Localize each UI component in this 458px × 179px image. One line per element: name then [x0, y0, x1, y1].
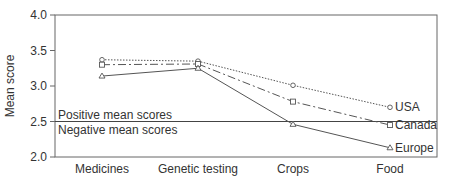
x-category-label: Medicines — [75, 162, 129, 176]
y-tick-label: 3.0 — [30, 79, 47, 93]
y-tick-label: 2.5 — [30, 115, 47, 129]
y-tick-label: 3.5 — [30, 44, 47, 58]
circle-marker-icon — [100, 57, 105, 62]
reference-line: Positive mean scoresNegative mean scores — [55, 108, 437, 137]
chart-canvas: 2.02.53.03.54.0 Positive mean scoresNega… — [0, 0, 458, 179]
series-label-canada: Canada — [395, 118, 437, 132]
y-tick-label: 2.0 — [30, 150, 47, 164]
axes: 2.02.53.03.54.0 — [30, 8, 437, 164]
x-category-label: Genetic testing — [158, 162, 238, 176]
circle-marker-icon — [291, 83, 296, 88]
square-marker-icon — [291, 99, 296, 104]
square-marker-icon — [388, 123, 393, 128]
triangle-marker-icon — [290, 121, 296, 126]
series-label-europe: Europe — [395, 141, 434, 155]
square-marker-icon — [100, 62, 105, 67]
x-category-label: Crops — [277, 162, 309, 176]
y-tick-label: 4.0 — [30, 8, 47, 22]
positive-region-label: Positive mean scores — [58, 108, 172, 122]
x-category-label: Food — [376, 162, 403, 176]
series-group: USACanadaEurope — [99, 57, 437, 154]
circle-marker-icon — [388, 105, 393, 110]
series-usa: USA — [100, 57, 420, 114]
series-label-usa: USA — [395, 100, 420, 114]
y-axis-title: Mean score — [3, 54, 17, 117]
negative-region-label: Negative mean scores — [58, 123, 177, 137]
line-chart: 2.02.53.03.54.0 Positive mean scoresNega… — [0, 0, 458, 179]
